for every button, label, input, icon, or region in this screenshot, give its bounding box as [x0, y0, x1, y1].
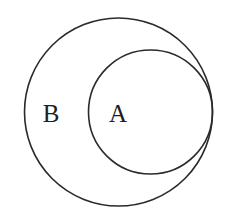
set-a-circle	[89, 50, 213, 174]
venn-diagram: B A	[0, 0, 225, 213]
set-a-label: A	[109, 100, 127, 127]
set-b-label: B	[43, 100, 60, 127]
